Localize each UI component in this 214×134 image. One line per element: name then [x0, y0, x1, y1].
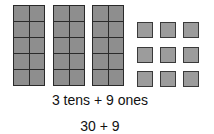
ones-cube	[137, 22, 153, 38]
ones-cube	[160, 47, 176, 63]
ones-cube	[183, 71, 199, 87]
tens-rod-1	[13, 5, 45, 86]
tens-rod-3	[92, 5, 124, 86]
ones-cube	[183, 22, 199, 38]
ones-cube	[183, 47, 199, 63]
ones-cube	[160, 22, 176, 38]
ones-cube	[160, 71, 176, 87]
tens-rod-2	[53, 5, 85, 86]
ones-cube	[137, 71, 153, 87]
expanded-number-caption: 30 + 9	[0, 118, 200, 134]
ones-cube	[137, 47, 153, 63]
expanded-words-caption: 3 tens + 9 ones	[0, 92, 200, 108]
